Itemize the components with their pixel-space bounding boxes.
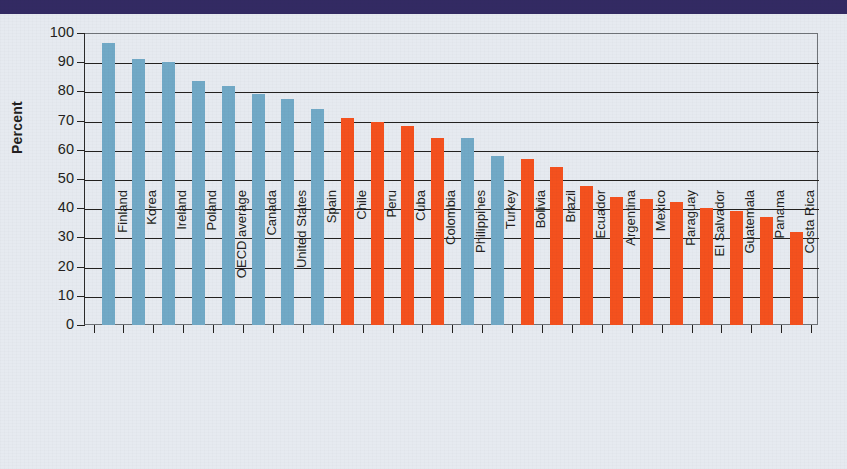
x-axis-tick bbox=[781, 325, 782, 333]
x-axis-tick-label: Brazil bbox=[563, 190, 579, 223]
x-axis-label-wrap: United States bbox=[294, 190, 310, 340]
bar bbox=[521, 159, 534, 325]
x-axis-label-wrap: Argentina bbox=[623, 190, 639, 340]
x-axis-tick bbox=[393, 325, 394, 333]
bar bbox=[192, 81, 205, 325]
y-axis-tick-label: 90 bbox=[34, 54, 74, 68]
bar bbox=[162, 62, 175, 325]
x-axis-label-wrap: Canada bbox=[264, 190, 280, 340]
x-axis-label-wrap: El Salvador bbox=[712, 190, 728, 340]
x-axis-label-wrap: Poland bbox=[204, 190, 220, 340]
y-axis-tick bbox=[77, 91, 85, 92]
y-axis-tick bbox=[77, 267, 85, 268]
y-axis-tick bbox=[77, 150, 85, 151]
x-axis-label-wrap: Philippines bbox=[473, 190, 489, 340]
bar bbox=[311, 109, 324, 325]
x-axis-tick-label: Argentina bbox=[623, 190, 639, 246]
y-axis-labels: 0102030405060708090100 bbox=[26, 0, 74, 469]
x-axis-tick-label: Bolivia bbox=[533, 190, 549, 228]
x-axis-tick bbox=[452, 325, 453, 333]
y-axis-tick bbox=[77, 296, 85, 297]
x-axis-tick bbox=[303, 325, 304, 333]
bar bbox=[371, 122, 384, 325]
y-axis-tick bbox=[77, 179, 85, 180]
x-axis-label-wrap: Guatemala bbox=[742, 190, 758, 340]
bar bbox=[760, 217, 773, 325]
x-axis-tick bbox=[243, 325, 244, 333]
x-axis-label-wrap: Turkey bbox=[503, 190, 519, 340]
x-axis-tick bbox=[153, 325, 154, 333]
y-axis-tick-label: 40 bbox=[34, 200, 74, 214]
x-axis-tick bbox=[333, 325, 334, 333]
bar bbox=[461, 138, 474, 325]
x-axis-tick-label: Chile bbox=[354, 190, 370, 220]
x-axis-label-wrap: Korea bbox=[144, 190, 160, 340]
x-axis-tick bbox=[422, 325, 423, 333]
x-axis-tick bbox=[721, 325, 722, 333]
y-axis-tick bbox=[77, 237, 85, 238]
x-axis-tick bbox=[482, 325, 483, 333]
x-axis-tick-label: Mexico bbox=[653, 190, 669, 231]
x-axis-tick-label: Panama bbox=[772, 190, 788, 238]
bar bbox=[252, 94, 265, 325]
x-axis-label-wrap: Colombia bbox=[443, 190, 459, 340]
y-axis-tick-label: 0 bbox=[34, 317, 74, 331]
x-axis-tick-label: Turkey bbox=[503, 190, 519, 229]
x-axis-tick bbox=[273, 325, 274, 333]
x-axis-tick-label: United States bbox=[294, 190, 310, 268]
bar bbox=[610, 197, 623, 325]
y-axis-tick bbox=[77, 62, 85, 63]
bar bbox=[102, 43, 115, 325]
x-axis-tick-label: Korea bbox=[144, 190, 160, 225]
bar bbox=[730, 211, 743, 325]
x-axis-tick bbox=[662, 325, 663, 333]
x-axis-label-wrap: Ecuador bbox=[593, 190, 609, 340]
x-axis-tick-label: Cuba bbox=[413, 190, 429, 221]
x-axis-tick-label: Ireland bbox=[174, 190, 190, 230]
x-axis-tick-label: Finland bbox=[115, 190, 131, 233]
bar bbox=[431, 138, 444, 325]
bar bbox=[341, 118, 354, 325]
x-axis-label-wrap: Costa Rica bbox=[802, 190, 818, 340]
x-axis-tick bbox=[602, 325, 603, 333]
y-axis-tick-label: 20 bbox=[34, 259, 74, 273]
x-axis-tick-label: Spain bbox=[324, 190, 340, 223]
header-band bbox=[0, 0, 847, 14]
bar bbox=[491, 156, 504, 325]
y-axis-tick-label: 100 bbox=[34, 25, 74, 39]
x-axis-label-wrap: Brazil bbox=[563, 190, 579, 340]
x-axis-tick bbox=[542, 325, 543, 333]
x-axis-tick-label: Guatemala bbox=[742, 190, 758, 254]
y-axis-tick-label: 30 bbox=[34, 229, 74, 243]
x-axis-tick-label: Peru bbox=[384, 190, 400, 217]
x-axis-label-wrap: Ireland bbox=[174, 190, 190, 340]
chart-page: Percent 0102030405060708090100 FinlandKo… bbox=[0, 0, 847, 469]
y-axis-tick-label: 10 bbox=[34, 288, 74, 302]
y-axis-tick bbox=[77, 121, 85, 122]
y-axis-tick-label: 60 bbox=[34, 142, 74, 156]
x-axis-tick bbox=[811, 325, 812, 333]
x-axis-label-wrap: Bolivia bbox=[533, 190, 549, 340]
x-axis-label-wrap: Panama bbox=[772, 190, 788, 340]
x-axis-tick bbox=[751, 325, 752, 333]
x-axis-tick-label: Costa Rica bbox=[802, 190, 818, 254]
x-axis-tick-label: Ecuador bbox=[593, 190, 609, 238]
bar bbox=[790, 232, 803, 325]
y-axis-tick bbox=[77, 325, 85, 326]
x-axis-label-wrap: Cuba bbox=[413, 190, 429, 340]
bar bbox=[670, 202, 683, 325]
x-axis-tick-label: Canada bbox=[264, 190, 280, 236]
bar bbox=[281, 99, 294, 325]
x-axis-tick bbox=[363, 325, 364, 333]
bar bbox=[580, 186, 593, 325]
x-axis-tick-label: El Salvador bbox=[712, 190, 728, 256]
x-axis-tick-label: Poland bbox=[204, 190, 220, 230]
x-axis-tick bbox=[632, 325, 633, 333]
y-axis-tick bbox=[77, 208, 85, 209]
x-axis-label-wrap: Spain bbox=[324, 190, 340, 340]
x-axis-label-wrap: OECD average bbox=[234, 190, 250, 340]
x-axis-tick-label: OECD average bbox=[234, 190, 250, 278]
x-axis-tick bbox=[183, 325, 184, 333]
x-axis-tick bbox=[213, 325, 214, 333]
x-axis-label-wrap: Paraguay bbox=[683, 190, 699, 340]
